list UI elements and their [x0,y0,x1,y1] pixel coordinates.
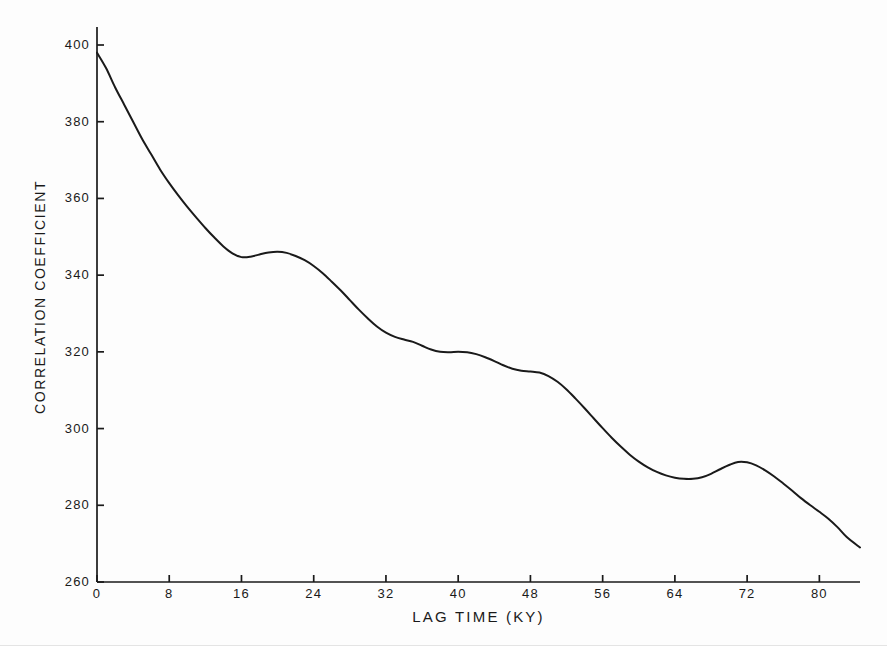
x-tick-label: 48 [522,586,539,601]
x-tick-label: 56 [594,586,611,601]
x-tick-label: 64 [666,586,683,601]
axis-lines [97,27,860,582]
x-tick-label: 32 [378,586,395,601]
figure-container: 260280300320340360380400 081624324048566… [0,0,887,646]
y-tick-label: 360 [65,190,90,205]
x-tick-label: 40 [450,586,467,601]
x-tick-label: 16 [233,586,250,601]
x-tick-label: 8 [165,586,173,601]
x-tick-label: 0 [93,586,101,601]
axis-ticks [97,45,819,582]
x-axis-title: LAG TIME (KY) [412,608,545,625]
chart-plot-area [0,0,887,646]
y-tick-label: 260 [65,574,90,589]
data-line [97,53,860,548]
y-tick-label: 280 [65,497,90,512]
data-series-group [97,53,860,548]
x-tick-label: 72 [739,586,756,601]
y-axis-title: CORRELATION COEFFICIENT [32,179,48,413]
x-tick-label: 80 [811,586,828,601]
x-tick-label: 24 [305,586,322,601]
y-tick-label: 320 [65,344,90,359]
y-tick-label: 340 [65,267,90,282]
y-tick-label: 300 [65,421,90,436]
y-tick-label: 380 [65,114,90,129]
y-tick-label: 400 [65,37,90,52]
